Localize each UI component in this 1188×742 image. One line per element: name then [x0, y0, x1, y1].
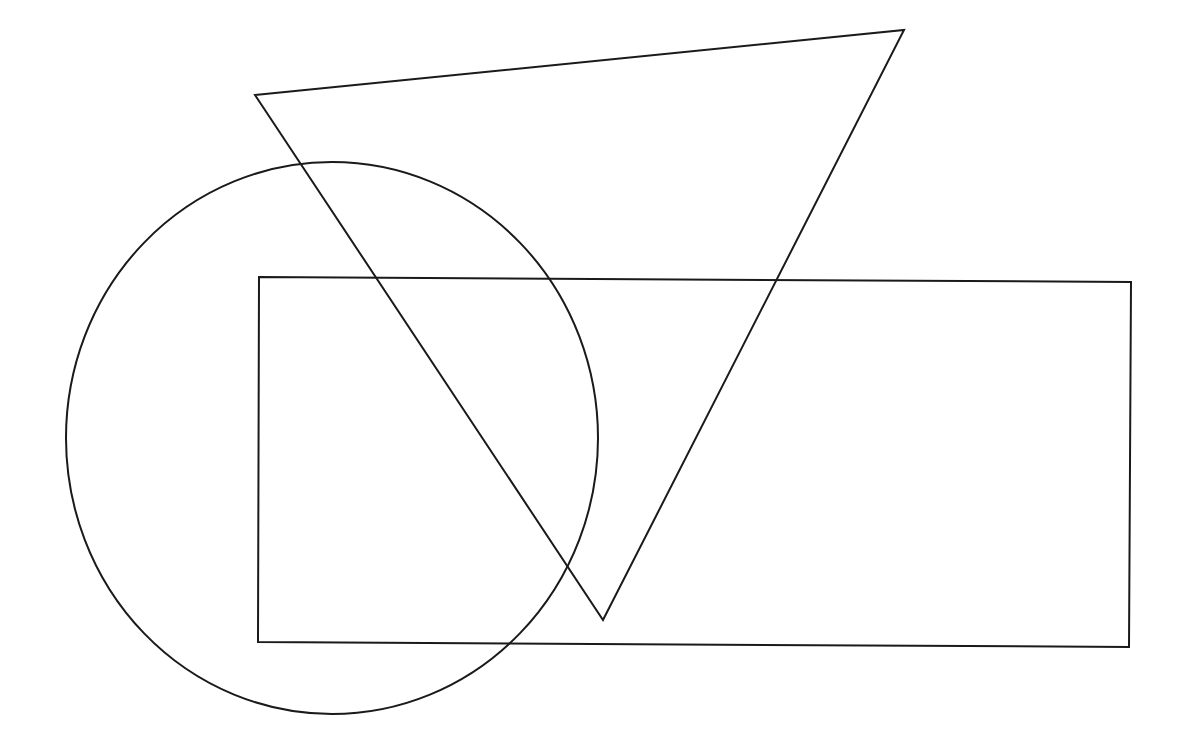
triangle-shape	[255, 30, 904, 620]
circle-shape	[66, 162, 598, 714]
rectangle-shape	[258, 277, 1131, 647]
diagram-canvas	[0, 0, 1188, 742]
